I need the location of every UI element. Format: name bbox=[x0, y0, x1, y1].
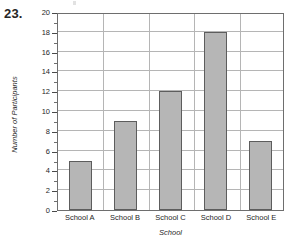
x-tick-label: School D bbox=[193, 214, 238, 222]
y-tick-label: 0 bbox=[26, 207, 50, 215]
y-tick-label: 2 bbox=[26, 187, 50, 195]
y-axis-title: Number of Participants bbox=[10, 55, 19, 175]
bar-cell bbox=[58, 14, 103, 210]
y-tick-label: 16 bbox=[26, 49, 50, 57]
x-tick-label: School B bbox=[102, 214, 147, 222]
y-tick-label: 14 bbox=[26, 68, 50, 76]
x-tick-label: School E bbox=[239, 214, 284, 222]
y-tick-label: 18 bbox=[26, 29, 50, 37]
y-tick-label: 10 bbox=[26, 108, 50, 116]
x-tick-label: School C bbox=[148, 214, 193, 222]
y-tick-major bbox=[52, 211, 57, 212]
x-axis-tick-labels: School ASchool BSchool CSchool DSchool E bbox=[57, 214, 284, 222]
y-tick-label: 12 bbox=[26, 88, 50, 96]
bar-school-c bbox=[159, 91, 182, 210]
bar-cell bbox=[193, 14, 238, 210]
y-tick-label: 6 bbox=[26, 148, 50, 156]
bar-school-a bbox=[69, 161, 92, 211]
bar-chart-figure: 23. 02468101214161820 School ASchool BSc… bbox=[0, 0, 291, 240]
x-axis-title: School bbox=[57, 228, 284, 237]
y-tick-label: 4 bbox=[26, 167, 50, 175]
y-tick-label: 20 bbox=[26, 9, 50, 17]
y-tick-label: 8 bbox=[26, 128, 50, 136]
bar-cell bbox=[103, 14, 148, 210]
bar-school-b bbox=[114, 121, 137, 210]
plot-area bbox=[57, 13, 284, 211]
bar-school-d bbox=[204, 32, 227, 210]
x-tick-label: School A bbox=[57, 214, 102, 222]
bar-school-e bbox=[249, 141, 272, 210]
bar-cell bbox=[238, 14, 283, 210]
bars-layer bbox=[58, 14, 283, 210]
bar-cell bbox=[148, 14, 193, 210]
